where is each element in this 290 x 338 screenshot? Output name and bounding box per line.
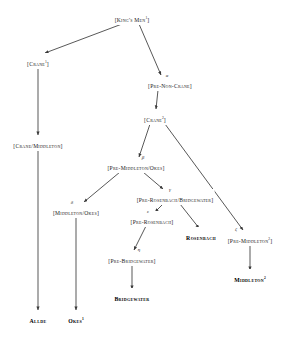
node-label: [Middleton/Okes] [53, 211, 99, 217]
stemma-node-rosenbach: Rosenbach [185, 227, 217, 243]
stemma-node-pre-middleton-okes: [Pre-Middleton/Okes] [106, 157, 165, 173]
stemma-node-bridgewater: Bridgewater [113, 288, 150, 304]
node-label: Okes1 [68, 318, 84, 325]
stemma-diagram: [King's Men1][Crane1][Pre-Non-Crane][Cra… [0, 0, 290, 338]
edge-label-zeta-label: ζ [235, 227, 237, 232]
node-label: [Pre-Middleton/Okes] [107, 166, 164, 172]
stemma-node-crane-1: [Crane1] [26, 53, 50, 69]
edge-label-beta-label: β [142, 155, 145, 160]
stemma-node-pre-rosenbach-bridgewater: [Pre-Rosenbach/Bridgewater] [136, 189, 215, 205]
stemma-edge [180, 204, 199, 228]
stemma-node-middleton-okes: [Middleton/Okes] [52, 202, 100, 218]
stemma-edge [84, 172, 120, 202]
node-label: Middleton2 [234, 277, 266, 284]
node-label: [Crane/Middleton] [13, 144, 62, 150]
node-superscript: 1 [82, 317, 84, 321]
node-label: [Pre-Non-Crane] [148, 84, 192, 90]
stemma-edge [165, 124, 243, 230]
node-label: Rosenbach [186, 236, 216, 242]
stemma-edge [143, 172, 163, 189]
stemma-edge [45, 24, 122, 53]
node-label: [Pre-Middleton2] [228, 238, 273, 244]
stemma-node-kings-men-1: [King's Men1] [114, 9, 151, 25]
node-bracket-close: ] [270, 238, 272, 244]
node-label: [King's Men1] [115, 17, 150, 23]
edge-label-delta-label: δ [71, 200, 73, 205]
node-bracket-close: ] [47, 61, 49, 67]
node-bracket-close: ] [147, 17, 149, 23]
node-label: Allde [30, 319, 47, 325]
node-label: [Crane2] [144, 117, 166, 123]
edge-label-alpha-label: α [166, 73, 169, 78]
stemma-node-crane-2: [Crane2] [143, 109, 167, 125]
stemma-node-pre-middleton-2: [Pre-Middleton2] [227, 230, 274, 246]
edge-label-epsilon-label: ε [147, 209, 149, 214]
stemma-node-allde: Allde [29, 310, 48, 326]
node-label: [Pre-Rosenbach/Bridgewater] [137, 198, 214, 204]
edge-label-gamma-label: γ [169, 187, 171, 192]
node-label: Bridgewater [114, 297, 149, 303]
edge-label-eta-label: η [138, 247, 140, 252]
stemma-node-pre-rosenbach: [Pre-Rosenbach] [130, 211, 175, 227]
stemma-edge [139, 124, 150, 157]
node-label: [Crane1] [27, 61, 49, 67]
stemma-node-middleton-2: Middleton2 [233, 269, 267, 285]
node-label: [Pre-Bridgewater] [108, 259, 155, 265]
stemma-edge [156, 90, 158, 109]
stemma-node-crane-middleton: [Crane/Middleton] [12, 135, 63, 151]
stemma-node-pre-bridgewater: [Pre-Bridgewater] [107, 250, 156, 266]
node-superscript: 2 [264, 276, 266, 280]
stemma-node-pre-non-crane: [Pre-Non-Crane] [147, 75, 193, 91]
stemma-edge [139, 24, 161, 75]
node-bracket-close: ] [164, 117, 166, 123]
node-label: [Pre-Rosenbach] [131, 220, 174, 226]
stemma-node-okes-1: Okes1 [67, 310, 85, 326]
